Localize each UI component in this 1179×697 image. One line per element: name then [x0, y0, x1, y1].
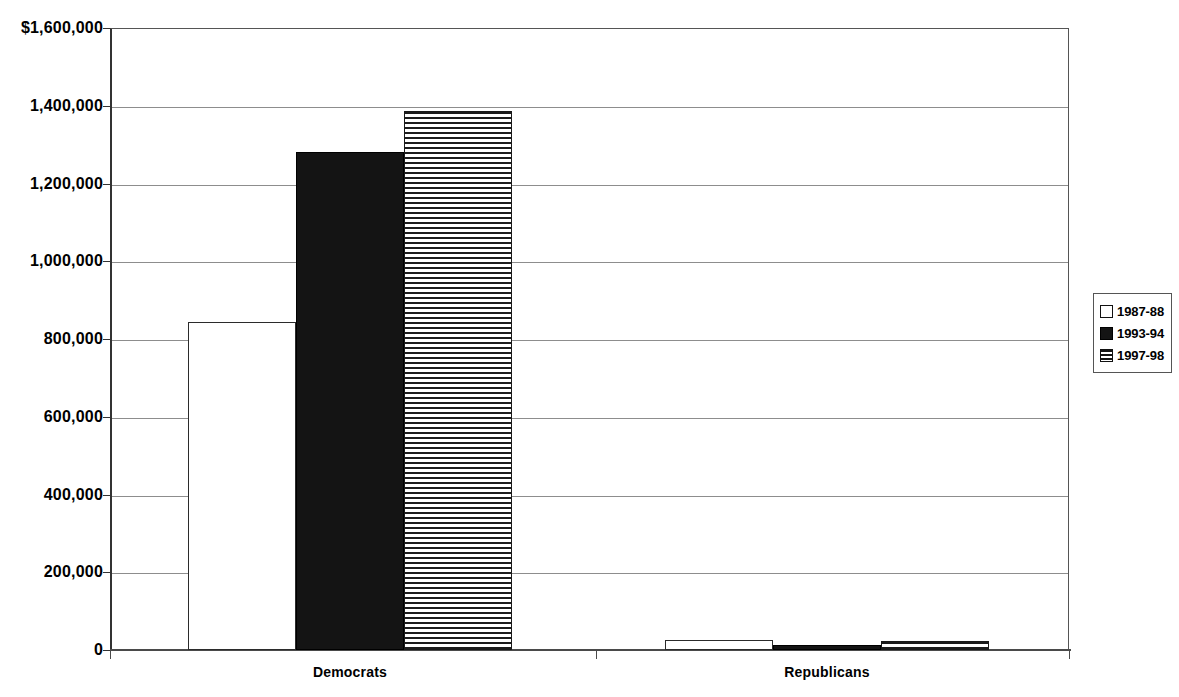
y-axis-tick-label: 1,200,000 [3, 176, 103, 192]
y-axis-tick-mark [103, 417, 110, 418]
y-axis-tick-label: 0 [3, 642, 103, 658]
legend-swatch-1987-88-icon [1100, 305, 1113, 318]
y-axis-tick-label: 1,000,000 [3, 253, 103, 269]
y-axis-tick-label: $1,600,000 [3, 20, 103, 36]
legend-item[interactable]: 1993-94 [1098, 322, 1167, 344]
y-axis-tick-mark [103, 650, 110, 651]
y-axis-tick-mark [103, 495, 110, 496]
legend-label: 1993-94 [1117, 326, 1164, 341]
y-axis-tick-label: 600,000 [3, 409, 103, 425]
bar-chart: 0200,000400,000600,000800,0001,000,0001,… [0, 0, 1179, 697]
x-axis-tick-mark [596, 650, 597, 659]
legend-item[interactable]: 1987-88 [1098, 300, 1167, 322]
x-axis: DemocratsRepublicans [110, 664, 1069, 694]
x-axis-category-label: Republicans [784, 664, 869, 680]
legend-swatch-1993-94-icon [1100, 327, 1113, 340]
y-axis-tick-mark [103, 261, 110, 262]
legend: 1987-88 1993-94 1997-98 [1093, 293, 1172, 373]
legend-swatch-1997-98-icon [1100, 349, 1113, 362]
y-axis-tick-mark [103, 572, 110, 573]
legend-item[interactable]: 1997-98 [1098, 344, 1167, 366]
bars-layer [110, 28, 1069, 650]
x-axis-category-label: Democrats [313, 664, 387, 680]
y-axis-tick-label: 1,400,000 [3, 98, 103, 114]
y-axis-tick-mark [103, 28, 110, 29]
legend-label: 1987-88 [1117, 304, 1164, 319]
x-axis-tick-mark [1069, 650, 1070, 659]
y-axis-tick-label: 400,000 [3, 487, 103, 503]
y-axis-tick-mark [103, 184, 110, 185]
bar[interactable] [404, 111, 512, 650]
bar[interactable] [188, 322, 296, 650]
y-axis-tick-mark [103, 106, 110, 107]
x-axis-tick-mark [110, 650, 111, 659]
y-axis-tick-label: 800,000 [3, 331, 103, 347]
bar[interactable] [296, 152, 404, 650]
y-axis-tick-mark [103, 339, 110, 340]
bar[interactable] [881, 641, 989, 650]
legend-label: 1997-98 [1117, 348, 1164, 363]
y-axis-tick-label: 200,000 [3, 564, 103, 580]
bar[interactable] [665, 640, 773, 650]
y-axis: 0200,000400,000600,000800,0001,000,0001,… [0, 0, 103, 697]
bar[interactable] [773, 645, 881, 650]
